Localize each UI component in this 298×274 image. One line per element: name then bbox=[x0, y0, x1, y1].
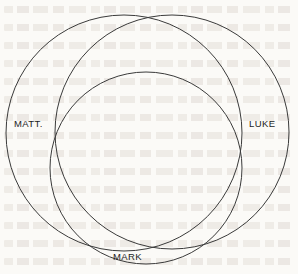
circle-matthew bbox=[6, 15, 242, 251]
page-canvas: MATT. LUKE MARK bbox=[0, 0, 298, 274]
venn-label-matthew: MATT. bbox=[14, 119, 43, 129]
venn-label-mark: MARK bbox=[113, 252, 142, 262]
venn-label-luke: LUKE bbox=[249, 119, 275, 129]
circle-mark bbox=[50, 72, 242, 264]
circle-luke bbox=[55, 15, 289, 249]
venn-diagram bbox=[0, 0, 298, 274]
